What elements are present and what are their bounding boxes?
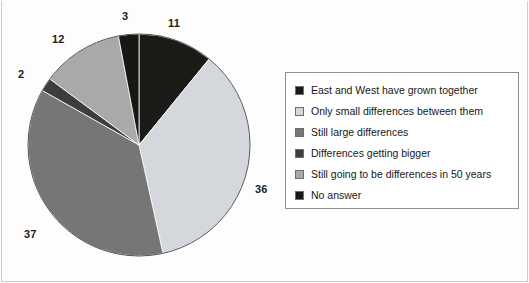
legend-item-label: East and West have grown together [311,85,478,96]
pie-slice-value-label: 11 [168,17,180,29]
pie-slice-value-label: 36 [255,183,268,195]
pie-slice-value-label: 37 [24,228,37,240]
legend-swatch-icon [295,191,304,200]
legend-swatch-icon [295,128,304,137]
pie-chart-area: 1136372123 [0,0,275,283]
legend-swatch-icon [295,170,304,179]
legend-item-label: Still going to be differences in 50 year… [311,169,491,180]
pie-slices [28,34,250,256]
legend-item[interactable]: No answer [295,185,510,206]
pie-slice-value-label: 12 [52,33,65,45]
legend-swatch-icon [295,86,304,95]
pie-chart-svg [0,0,275,283]
legend-swatch-icon [295,107,304,116]
legend-item[interactable]: Differences getting bigger [295,143,510,164]
legend-swatch-icon [295,149,304,158]
pie-chart-figure: 1136372123 East and West have grown toge… [0,0,529,283]
pie-slice-value-label: 3 [122,10,128,22]
legend-item-label: Only small differences between them [311,106,483,117]
pie-slice-value-label: 2 [18,68,24,80]
legend-item-label: Differences getting bigger [311,148,430,159]
legend-item[interactable]: East and West have grown together [295,80,510,101]
legend-item[interactable]: Still large differences [295,122,510,143]
legend-item[interactable]: Still going to be differences in 50 year… [295,164,510,185]
legend-item-label: No answer [311,190,361,201]
legend-item[interactable]: Only small differences between them [295,101,510,122]
legend-item-label: Still large differences [311,127,408,138]
chart-legend: East and West have grown together Only s… [285,72,519,209]
